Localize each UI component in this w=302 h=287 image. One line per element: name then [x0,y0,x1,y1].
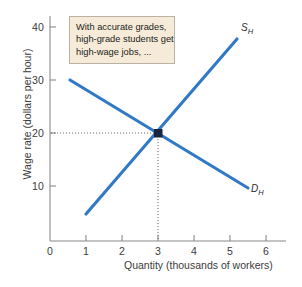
chart-figure: 40 30 20 10 0 1 2 3 4 5 6 Wage rate (dol… [0,0,302,287]
y-axis-title: Wage rate (dollars per hour) [21,29,33,199]
annotation-box: With accurate grades, high-grade student… [69,16,175,64]
annotation-line-3: high-wage jobs, ... [76,46,168,58]
y-tick-marks [50,27,56,186]
x-tick-label-3: 3 [148,245,168,257]
supply-curve [86,39,237,214]
x-tick-label-0: 0 [40,245,60,257]
x-tick-label-1: 1 [76,245,96,257]
x-axis-title: Quantity (thousands of workers) [124,259,273,271]
demand-curve-label: DH [251,183,264,197]
x-tick-label-6: 6 [256,245,276,257]
annotation-line-1: With accurate grades, [76,21,168,33]
x-tick-label-5: 5 [220,245,240,257]
x-tick-label-4: 4 [184,245,204,257]
annotation-line-2: high-grade students get [76,33,168,45]
supply-curve-label-subscript: H [248,27,253,36]
x-tick-marks [86,235,266,241]
demand-curve-label-subscript: H [258,188,263,197]
equilibrium-point-marker [154,129,163,138]
supply-curve-label-letter: S [241,22,248,33]
supply-curve-label: SH [241,22,253,36]
x-tick-label-2: 2 [112,245,132,257]
